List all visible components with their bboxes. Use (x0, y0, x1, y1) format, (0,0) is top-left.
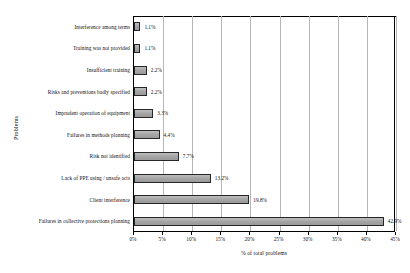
bar (134, 195, 249, 204)
gridline (396, 16, 397, 231)
bar-value-label: 19.8% (253, 197, 267, 203)
category-label: Interference among terms (22, 24, 130, 30)
bar (134, 22, 140, 31)
x-tick-label: 5% (159, 236, 166, 242)
category-label: Insufficient training (22, 67, 130, 73)
x-tick-mark (395, 232, 396, 235)
bar (134, 174, 211, 183)
plot-frame-top (134, 16, 396, 17)
x-tick-mark (191, 232, 192, 235)
gridline (250, 16, 251, 231)
x-tick-label: 45% (390, 236, 400, 242)
bar-value-label: 1.1% (144, 45, 155, 51)
x-tick-label: 25% (274, 236, 284, 242)
category-label: Failures in collective protections plann… (22, 218, 130, 224)
bar-value-label: 1.1% (144, 24, 155, 30)
category-label: Failures in methods planning (22, 132, 130, 138)
bar (134, 217, 384, 226)
plot-frame-right (394, 16, 395, 232)
bar (134, 130, 160, 139)
bar-value-label: 4.4% (164, 132, 175, 138)
bar-chart: Problems Interference among termsTrainin… (0, 0, 410, 273)
bar-value-label: 3.3% (157, 110, 168, 116)
x-tick-label: 10% (186, 236, 196, 242)
x-tick-label: 30% (303, 236, 313, 242)
x-tick-mark (249, 232, 250, 235)
x-tick-label: 20% (245, 236, 255, 242)
x-tick-label: 40% (361, 236, 371, 242)
bar (134, 66, 147, 75)
y-axis-title: Problems (13, 98, 19, 158)
gridline (367, 16, 368, 231)
x-tick-mark (308, 232, 309, 235)
category-label: Risks and preventions badly specified (22, 88, 130, 94)
category-axis-labels: Interference among termsTraining was not… (22, 16, 130, 232)
x-tick-mark (220, 232, 221, 235)
category-label: Client interference (22, 196, 130, 202)
bar-value-label: 2.2% (151, 67, 162, 73)
category-label: Risk not identified (22, 153, 130, 159)
bar (134, 44, 140, 53)
x-tick-mark (133, 232, 134, 235)
bar-value-label: 13.2% (215, 175, 229, 181)
x-tick-mark (337, 232, 338, 235)
x-tick-mark (162, 232, 163, 235)
gridline (338, 16, 339, 231)
bar-value-label: 7.7% (183, 153, 194, 159)
x-tick-label: 15% (215, 236, 225, 242)
x-axis-title: % of total problems (133, 250, 395, 256)
x-tick-mark (279, 232, 280, 235)
bar (134, 87, 147, 96)
x-axis-ticks: 0%5%10%15%20%25%30%35%40%45% (133, 232, 395, 244)
category-label: Lack of PPE using / unsafe acts (22, 175, 130, 181)
gridline (280, 16, 281, 231)
plot-area: 1.1%1.1%2.2%2.2%3.3%4.4%7.7%13.2%19.8%42… (133, 16, 395, 232)
x-tick-mark (366, 232, 367, 235)
bar (134, 109, 153, 118)
x-tick-label: 35% (332, 236, 342, 242)
x-tick-label: 0% (129, 236, 136, 242)
bar-value-label: 2.2% (151, 89, 162, 95)
category-label: Imprudent operation of equipment (22, 110, 130, 116)
bar-value-label: 42.9% (388, 218, 402, 224)
bar (134, 152, 179, 161)
gridline (309, 16, 310, 231)
category-label: Training was not provided (22, 45, 130, 51)
